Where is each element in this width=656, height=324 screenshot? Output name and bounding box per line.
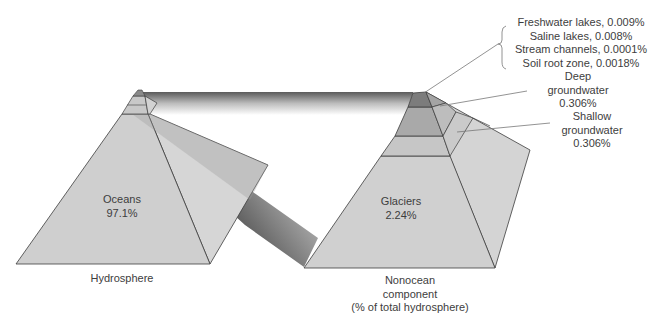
oceans-label: Oceans 97.1%: [92, 193, 152, 220]
surface-water-callout: Freshwater lakes, 0.009% Saline lakes, 0…: [508, 16, 654, 70]
leader-deep-groundwater: [440, 91, 527, 106]
glaciers-name: Glaciers: [371, 195, 431, 209]
callout-freshwater-lakes: Freshwater lakes, 0.009%: [508, 16, 654, 30]
leader-bracket: [424, 44, 498, 93]
callout-saline-lakes: Saline lakes, 0.008%: [508, 30, 654, 44]
deep-groundwater-callout: Deep groundwater 0.306%: [538, 70, 618, 111]
hydrosphere-caption: Hydrosphere: [82, 272, 162, 286]
callout-stream-channels: Stream channels, 0.0001%: [508, 43, 654, 57]
bracket-icon: [498, 26, 506, 69]
oceans-value: 97.1%: [92, 207, 152, 221]
glaciers-value: 2.24%: [371, 209, 431, 223]
hydrosphere-pyramid: [16, 90, 268, 264]
nonocean-caption: Nonocean component (% of total hydrosphe…: [340, 274, 480, 315]
callout-soil-root-zone: Soil root zone, 0.0018%: [508, 57, 654, 71]
glaciers-label: Glaciers 2.24%: [371, 195, 431, 222]
oceans-name: Oceans: [92, 193, 152, 207]
nonocean-pyramid: [304, 92, 530, 268]
shallow-groundwater-callout: Shallow groundwater 0.306%: [552, 110, 632, 151]
